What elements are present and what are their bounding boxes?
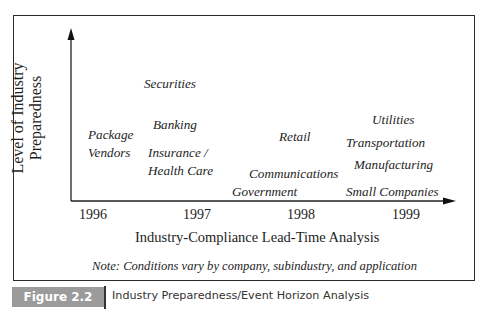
x-axis-title: Industry-Compliance Lead-Time Analysis [135, 229, 379, 246]
figure-number-badge: Figure 2.2 [12, 287, 104, 307]
label-government: Government [232, 184, 297, 200]
label-banking: Banking [153, 117, 197, 133]
label-insurance: Insurance / [148, 145, 208, 161]
label-health-care: Health Care [148, 163, 213, 179]
label-retail: Retail [279, 129, 311, 145]
y-axis-label: Level of Industry Preparedness [9, 33, 45, 203]
x-tick-1997: 1997 [183, 207, 211, 223]
label-small-companies: Small Companies [346, 184, 439, 200]
label-securities: Securities [144, 76, 196, 92]
label-transportation: Transportation [346, 135, 425, 151]
x-tick-1999: 1999 [392, 207, 420, 223]
label-communications: Communications [249, 166, 338, 182]
label-vendors: Vendors [88, 145, 131, 161]
x-tick-1996: 1996 [79, 207, 107, 223]
figure-caption: Industry Preparedness/Event Horizon Anal… [112, 289, 369, 302]
label-utilities: Utilities [372, 112, 415, 128]
caption-divider [104, 286, 106, 309]
label-manufacturing: Manufacturing [354, 157, 433, 173]
x-tick-1998: 1998 [287, 207, 315, 223]
chart-note: Note: Conditions vary by company, subind… [92, 259, 417, 274]
label-package: Package [88, 127, 133, 143]
